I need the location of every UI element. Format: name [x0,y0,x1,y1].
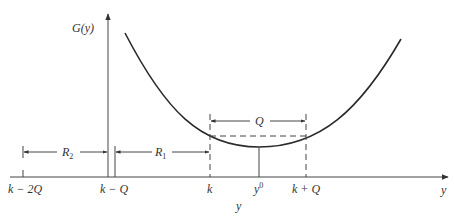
x-axis-end-label: y [440,183,447,197]
q-interval-label: Q [255,114,264,128]
y-axis-label: G(y) [72,21,94,35]
r1-label: R1 [154,145,166,161]
tick-label-k: k [207,182,213,196]
tick-label-k-minus-q: k − Q [100,182,128,196]
cost-curve [125,33,401,147]
inventory-cost-diagram: G(y) Q R2 R1 k − 2Q k − Q k y0 k + Q y y [0,0,454,217]
tick-label-k-minus-2q: k − 2Q [8,182,42,196]
r2-label: R2 [61,145,73,161]
tick-label-k-plus-q: k + Q [292,182,320,196]
tick-label-y0: y0 [253,181,263,196]
x-axis-caption: y [235,199,242,213]
